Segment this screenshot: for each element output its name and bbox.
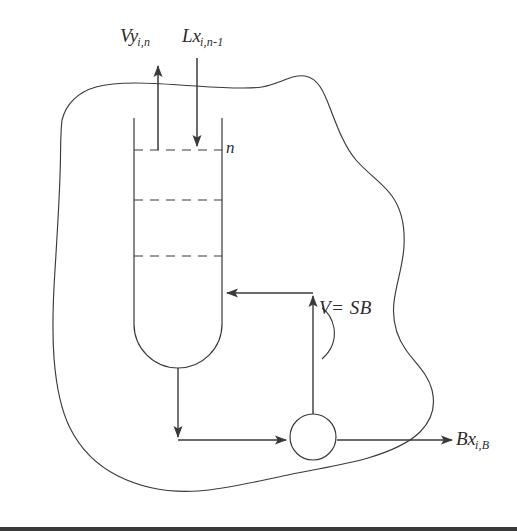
column-shell bbox=[134, 118, 222, 368]
figure-svg bbox=[0, 0, 517, 531]
liquid-down-label-base: Lx bbox=[182, 25, 201, 46]
bottoms-label-sub: i,B bbox=[475, 438, 489, 452]
vapor-up-label-sub: i,n bbox=[137, 35, 150, 49]
vapor-up-label: Vyi,n bbox=[120, 26, 151, 45]
boilup-label: V= SB bbox=[319, 298, 372, 317]
liquid-to-reboiler-arrow bbox=[178, 368, 286, 440]
reboiler-circle bbox=[290, 414, 336, 460]
bottoms-label: Bxi,B bbox=[456, 429, 490, 448]
liquid-down-label-sub: i,n-1 bbox=[200, 35, 223, 49]
bottoms-label-base: Bx bbox=[456, 428, 476, 449]
control-volume-boundary bbox=[53, 76, 434, 492]
tray-lines bbox=[134, 150, 222, 256]
diagram-canvas: Vyi,n Lxi,n-1 n V= SB Bxi,B bbox=[0, 0, 517, 531]
bottom-rule bbox=[0, 527, 517, 531]
liquid-down-label: Lxi,n-1 bbox=[182, 26, 224, 45]
stage-number-label: n bbox=[226, 139, 235, 156]
vapor-return-arrow bbox=[227, 293, 313, 414]
vapor-up-label-base: Vy bbox=[120, 25, 138, 46]
